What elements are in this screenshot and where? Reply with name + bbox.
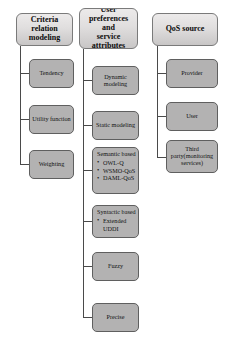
connector-branch-static-modeling [83, 125, 92, 126]
node-user[interactable]: User [166, 102, 218, 131]
node-precise[interactable]: Precise [92, 303, 139, 332]
connector-branch-semantic-based [83, 170, 92, 171]
connector-branch-precise [83, 317, 92, 318]
diagram-canvas: Criteria relation modeling Tendency Util… [0, 0, 229, 348]
connector-trunk-col1 [20, 46, 21, 165]
header-qos-source[interactable]: QoS source [152, 13, 218, 46]
node-semantic-based[interactable]: Semantic based OWL-Q WSMO-QoS DAML-QoS [92, 147, 139, 194]
node-fuzzy[interactable]: Fuzzy [92, 252, 139, 281]
connector-branch-utility-function [20, 119, 29, 120]
connector-branch-third-party [157, 157, 166, 158]
node-semantic-based-title: Semantic based [97, 151, 136, 158]
list-item: DAML-QoS [102, 174, 136, 182]
node-provider[interactable]: Provider [166, 59, 218, 88]
node-utility-function[interactable]: Utility function [29, 105, 74, 134]
node-syntactic-based[interactable]: Syntactic based Extended UDDI [92, 205, 139, 238]
node-third-party[interactable]: Third party(monitoring services) [166, 140, 218, 173]
node-tendency[interactable]: Tendency [29, 59, 74, 88]
node-syntactic-based-title: Syntactic based [97, 209, 136, 216]
node-dynamic-modeling[interactable]: Dynamic modeling [92, 66, 139, 95]
connector-branch-dynamic-modeling [83, 80, 92, 81]
connector-branch-user [157, 116, 166, 117]
connector-branch-tendency [20, 73, 29, 74]
connector-trunk-col2 [83, 49, 84, 317]
node-weighting[interactable]: Weighting [29, 150, 74, 179]
header-user-preferences-and-service-attributes[interactable]: User preferences and service attributes [79, 8, 138, 49]
list-item: OWL-Q [102, 159, 136, 167]
list-item: Extended UDDI [102, 217, 136, 232]
node-syntactic-based-bullets: Extended UDDI [97, 217, 136, 232]
connector-branch-weighting [20, 164, 29, 165]
header-criteria-relation-modeling[interactable]: Criteria relation modeling [16, 13, 73, 46]
connector-branch-provider [157, 73, 166, 74]
node-static-modeling[interactable]: Static modeling [92, 111, 139, 140]
connector-trunk-col3 [157, 46, 158, 158]
connector-branch-fuzzy [83, 266, 92, 267]
node-semantic-based-bullets: OWL-Q WSMO-QoS DAML-QoS [97, 159, 136, 182]
list-item: WSMO-QoS [102, 167, 136, 175]
connector-branch-syntactic-based [83, 221, 92, 222]
